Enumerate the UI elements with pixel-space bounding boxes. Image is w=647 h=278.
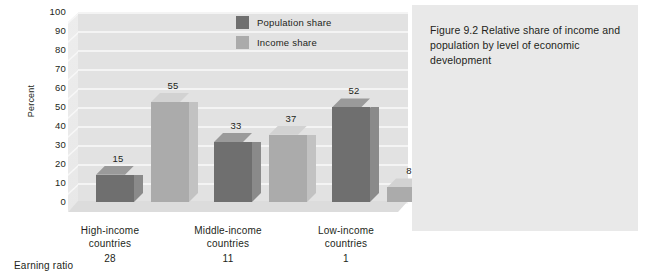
bar-income-1[interactable]	[151, 102, 189, 202]
bar-income-2[interactable]	[269, 135, 307, 202]
x-group-high-income-line2: countries	[50, 237, 170, 250]
gridline-70	[78, 69, 408, 71]
figure-caption-text: Figure 9.2 Relative share of income and …	[412, 5, 638, 68]
legend-swatch-population-icon	[236, 16, 249, 29]
bar-face-front	[269, 135, 307, 202]
value-label-population-3: 52	[334, 85, 374, 96]
chart-legend: Population share Income share	[236, 14, 332, 54]
figure-container: Percent 1009080706050403020100 155533375…	[0, 0, 647, 278]
value-label-income-2: 37	[271, 113, 311, 124]
y-tick-20: 20	[32, 159, 66, 169]
y-tick-60: 60	[32, 83, 66, 93]
bar-face-front	[96, 175, 134, 202]
value-label-population-2: 33	[216, 120, 256, 131]
legend-label-population: Population share	[257, 17, 332, 28]
y-tick-70: 70	[32, 64, 66, 74]
x-group-low-income-line1: Low-income	[286, 224, 406, 237]
legend-swatch-income-icon	[236, 36, 249, 49]
earning-ratio-middle-income: 11	[168, 252, 288, 265]
y-tick-90: 90	[32, 26, 66, 36]
x-group-high-income-line1: High-income	[50, 224, 170, 237]
plot-floor	[68, 201, 408, 212]
legend-item-income[interactable]: Income share	[236, 34, 332, 51]
bar-population-1[interactable]	[96, 175, 134, 202]
x-group-low-income: Low-income countries 1	[286, 224, 406, 265]
y-tick-40: 40	[32, 121, 66, 131]
legend-label-income: Income share	[257, 37, 317, 48]
value-label-income-1: 55	[153, 80, 193, 91]
bar-face-side	[370, 107, 379, 202]
x-axis: Earning ratio High-income countries 28 M…	[0, 224, 412, 278]
bar-face-side	[252, 142, 261, 202]
y-tick-30: 30	[32, 140, 66, 150]
x-group-low-income-line2: countries	[286, 237, 406, 250]
bar-face-side	[189, 102, 198, 202]
y-tick-100: 100	[32, 7, 66, 17]
x-group-middle-income: Middle-income countries 11	[168, 224, 288, 265]
x-group-high-income: High-income countries 28	[50, 224, 170, 265]
figure-caption-panel: Figure 9.2 Relative share of income and …	[412, 5, 638, 231]
bar-face-front	[332, 107, 370, 202]
bar-face-front	[151, 102, 189, 202]
y-tick-10: 10	[32, 178, 66, 188]
y-tick-50: 50	[32, 102, 66, 112]
x-group-middle-income-line1: Middle-income	[168, 224, 288, 237]
y-tick-0: 0	[32, 197, 66, 207]
earning-ratio-high-income: 28	[50, 252, 170, 265]
bar-face-side	[307, 135, 316, 202]
y-tick-80: 80	[32, 45, 66, 55]
x-group-middle-income-line2: countries	[168, 237, 288, 250]
bar-chart: Percent 1009080706050403020100 155533375…	[0, 0, 412, 278]
value-label-population-1: 15	[98, 153, 138, 164]
bar-population-2[interactable]	[214, 142, 252, 202]
bar-population-3[interactable]	[332, 107, 370, 202]
legend-item-population[interactable]: Population share	[236, 14, 332, 31]
bar-face-front	[214, 142, 252, 202]
earning-ratio-low-income: 1	[286, 252, 406, 265]
